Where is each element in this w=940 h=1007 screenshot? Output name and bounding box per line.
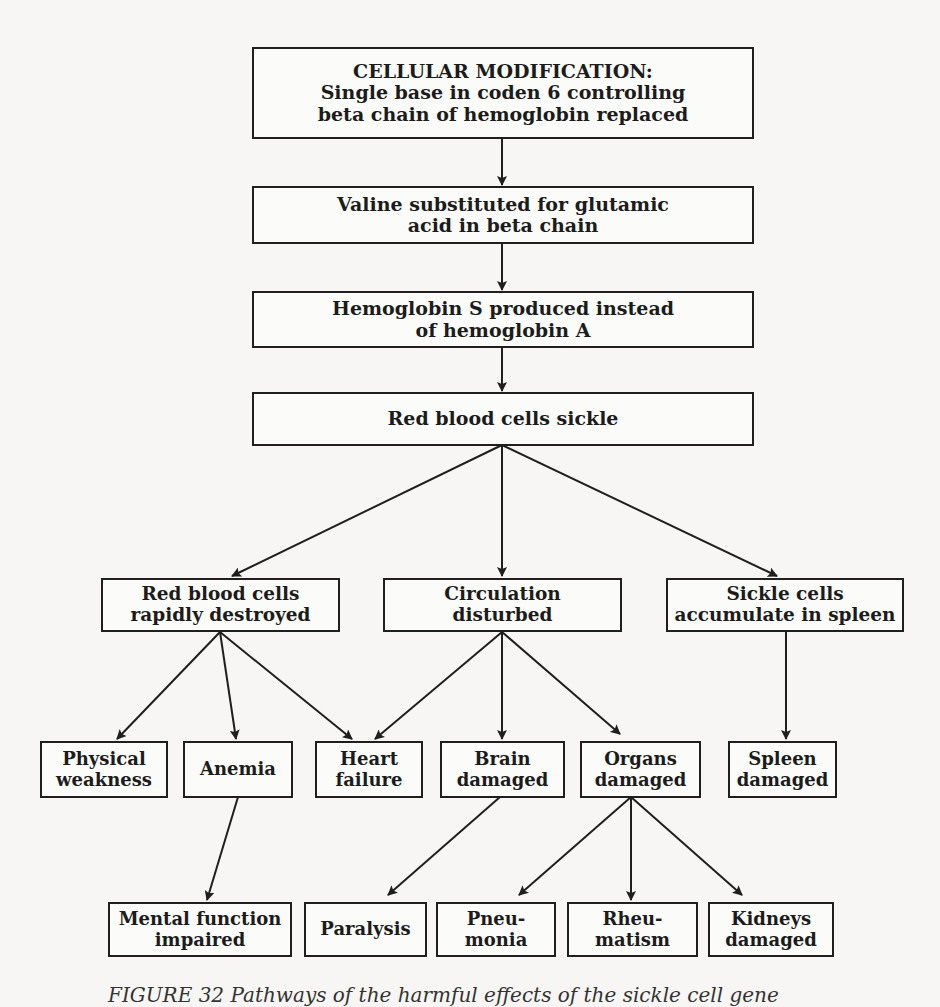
node-line: Organs: [604, 749, 677, 769]
arrow-n9-n14: [207, 797, 238, 900]
node-line: Red blood cells sickle: [388, 408, 619, 429]
node-mental-function-impaired: Mental function impaired: [108, 902, 292, 957]
node-line: beta chain of hemoglobin replaced: [318, 104, 689, 125]
node-line: matism: [595, 930, 670, 950]
node-heart-failure: Heart failure: [315, 741, 423, 798]
node-line: CELLULAR MODIFICATION:: [353, 61, 653, 82]
arrow-n5-n9: [220, 632, 236, 739]
node-line: Rheu-: [602, 909, 662, 929]
arrow-n5-n8: [117, 632, 220, 739]
node-valine-substituted: Valine substituted for glutamic acid in …: [252, 186, 754, 244]
node-line: of hemoglobin A: [416, 320, 591, 341]
node-line: Kidneys: [731, 909, 811, 929]
node-paralysis: Paralysis: [304, 902, 427, 957]
node-line: Hemoglobin S produced instead: [332, 298, 674, 319]
node-line: weakness: [56, 770, 152, 790]
arrow-n12-n16: [519, 797, 631, 895]
arrow-n4-n7: [502, 445, 777, 576]
node-rbc-destroyed: Red blood cells rapidly destroyed: [101, 578, 340, 632]
node-hemoglobin-s: Hemoglobin S produced instead of hemoglo…: [252, 291, 754, 348]
node-line: damaged: [457, 770, 549, 790]
node-line: disturbed: [453, 605, 553, 626]
arrow-n4-n5: [232, 445, 502, 576]
node-sickle-accumulate-spleen: Sickle cells accumulate in spleen: [666, 578, 904, 632]
node-line: Paralysis: [320, 919, 410, 939]
node-line: Circulation: [444, 584, 561, 605]
node-line: Single base in coden 6 controlling: [321, 82, 686, 103]
arrow-n6-n10: [375, 632, 502, 739]
figure-caption: FIGURE 32 Pathways of the harmful effect…: [108, 983, 779, 1007]
node-line: Red blood cells: [141, 584, 299, 605]
node-line: Physical: [62, 749, 146, 769]
node-line: accumulate in spleen: [674, 605, 895, 626]
node-kidneys-damaged: Kidneys damaged: [708, 902, 834, 957]
node-line: damaged: [725, 930, 817, 950]
node-spleen-damaged: Spleen damaged: [728, 741, 837, 798]
node-pneumonia: Pneu- monia: [436, 902, 556, 957]
node-circulation-disturbed: Circulation disturbed: [383, 578, 622, 632]
node-line: Mental function: [119, 909, 282, 929]
node-line: Pneu-: [467, 909, 526, 929]
node-line: Sickle cells: [726, 584, 843, 605]
node-rheumatism: Rheu- matism: [567, 902, 698, 957]
node-line: Spleen: [748, 749, 816, 769]
node-line: Heart: [340, 749, 398, 769]
node-line: acid in beta chain: [408, 215, 598, 236]
node-line: rapidly destroyed: [130, 605, 310, 626]
node-line: Brain: [474, 749, 530, 769]
node-line: monia: [465, 930, 528, 950]
node-brain-damaged: Brain damaged: [440, 741, 565, 798]
node-line: impaired: [155, 930, 246, 950]
node-physical-weakness: Physical weakness: [40, 741, 168, 798]
arrow-n11-n15: [388, 797, 500, 895]
arrow-n6-n12: [502, 632, 620, 734]
node-organs-damaged: Organs damaged: [580, 741, 701, 798]
node-line: failure: [335, 770, 402, 790]
arrow-n5-n10: [220, 632, 352, 739]
node-line: Anemia: [200, 759, 276, 779]
node-line: Valine substituted for glutamic: [337, 194, 669, 215]
arrow-n12-n18: [631, 797, 742, 895]
node-red-blood-cells-sickle: Red blood cells sickle: [252, 392, 754, 446]
node-line: damaged: [737, 770, 829, 790]
node-cellular-modification: CELLULAR MODIFICATION: Single base in co…: [252, 47, 754, 139]
node-anemia: Anemia: [183, 741, 293, 798]
node-line: damaged: [595, 770, 687, 790]
